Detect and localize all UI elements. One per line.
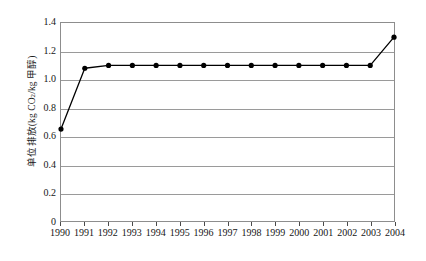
data-point-marker bbox=[320, 63, 325, 68]
data-point-marker bbox=[154, 63, 159, 68]
y-axis-tick-labels: 00.20.40.60.81.01.21.4 bbox=[30, 0, 56, 261]
data-point-marker bbox=[58, 126, 63, 131]
x-axis-tick-label: 1997 bbox=[218, 228, 238, 238]
y-axis-tick-label: 1.4 bbox=[30, 17, 56, 27]
series-layer bbox=[61, 23, 394, 221]
x-axis-tick bbox=[323, 222, 324, 226]
data-point-marker bbox=[296, 63, 301, 68]
line-chart: 单位排放(kg CO2/kg 甲醇) 00.20.40.60.81.01.21.… bbox=[0, 0, 426, 261]
x-axis-tick-label: 1993 bbox=[122, 228, 142, 238]
y-axis-tick-label: 0.6 bbox=[30, 131, 56, 141]
data-point-marker bbox=[249, 63, 254, 68]
x-axis-tick bbox=[204, 222, 205, 226]
x-axis-tick bbox=[156, 222, 157, 226]
series-line-unit-emission bbox=[61, 37, 394, 129]
x-axis-tick bbox=[84, 222, 85, 226]
y-axis-tick-label: 1.2 bbox=[30, 46, 56, 56]
x-axis-tick-label: 2004 bbox=[385, 228, 405, 238]
x-axis-tick bbox=[251, 222, 252, 226]
x-axis-tick bbox=[132, 222, 133, 226]
x-axis-tick-labels: 1990199119921993199419951996199719981999… bbox=[0, 228, 426, 244]
x-axis-tick bbox=[371, 222, 372, 226]
x-axis-tick-label: 1996 bbox=[194, 228, 214, 238]
x-axis-tick-label: 2002 bbox=[337, 228, 357, 238]
x-axis-tick bbox=[108, 222, 109, 226]
x-axis-tick bbox=[347, 222, 348, 226]
x-axis-tick-label: 1994 bbox=[146, 228, 166, 238]
x-axis-tick-label: 2003 bbox=[361, 228, 381, 238]
data-point-marker bbox=[272, 63, 277, 68]
data-point-marker bbox=[225, 63, 230, 68]
x-axis-tick bbox=[275, 222, 276, 226]
x-axis-tick-label: 1991 bbox=[74, 228, 94, 238]
x-axis-tick bbox=[395, 222, 396, 226]
y-axis-tick-label: 0.4 bbox=[30, 160, 56, 170]
data-point-marker bbox=[391, 35, 396, 40]
x-axis-tick-label: 1995 bbox=[170, 228, 190, 238]
y-axis-tick-label: 1.0 bbox=[30, 74, 56, 84]
x-axis-tick-label: 1990 bbox=[50, 228, 70, 238]
x-axis-tick bbox=[299, 222, 300, 226]
data-point-marker bbox=[130, 63, 135, 68]
plot-area bbox=[60, 22, 395, 222]
data-point-marker bbox=[368, 63, 373, 68]
y-axis-tick-label: 0 bbox=[30, 217, 56, 227]
x-axis-tick-label: 1992 bbox=[98, 228, 118, 238]
x-axis-tick-label: 1998 bbox=[241, 228, 261, 238]
data-point-marker bbox=[344, 63, 349, 68]
x-axis-tick bbox=[228, 222, 229, 226]
series-markers-unit-emission bbox=[58, 35, 396, 132]
y-axis-tick-label: 0.2 bbox=[30, 188, 56, 198]
data-point-marker bbox=[106, 63, 111, 68]
x-axis-tick-label: 2000 bbox=[289, 228, 309, 238]
x-axis-tick-label: 2001 bbox=[313, 228, 333, 238]
x-axis-tick bbox=[180, 222, 181, 226]
x-axis-tick bbox=[60, 222, 61, 226]
data-point-marker bbox=[82, 66, 87, 71]
x-axis-tick-label: 1999 bbox=[265, 228, 285, 238]
y-axis-tick-label: 0.8 bbox=[30, 103, 56, 113]
data-point-marker bbox=[201, 63, 206, 68]
data-point-marker bbox=[177, 63, 182, 68]
